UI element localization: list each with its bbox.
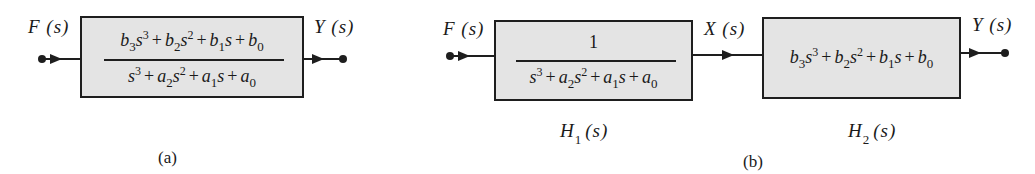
caption-a: (a)	[158, 148, 177, 168]
input-line-b	[450, 55, 494, 57]
block-name-h2: H2(s)	[848, 120, 896, 148]
denominator-a: s3+a2s2+a1s+a0	[82, 64, 302, 91]
middle-signal-label-b: X (s)	[704, 18, 745, 40]
output-arrow-icon-b	[969, 48, 981, 58]
numerator-h1: 1	[496, 32, 691, 53]
fraction-bar-h1	[516, 60, 676, 62]
output-terminal-dot-a	[339, 55, 347, 63]
fraction-bar-a	[104, 59, 284, 61]
input-arrow-icon-a	[50, 54, 62, 64]
transfer-function-block-a: b3s3+b2s2+b1s+b0 s3+a2s2+a1s+a0	[80, 16, 304, 98]
expression-h2: b3s3+b2s2+b1s+b0	[764, 45, 959, 72]
output-signal-label-b: Y (s)	[972, 14, 1012, 36]
output-arrow-icon-a	[312, 54, 324, 64]
output-line-b	[961, 52, 1005, 54]
numerator-a: b3s3+b2s2+b1s+b0	[82, 28, 302, 55]
output-terminal-dot-b	[1001, 49, 1009, 57]
middle-arrow-icon-b	[722, 50, 734, 60]
caption-b: (b)	[743, 152, 763, 172]
transfer-function-block-h2: b3s3+b2s2+b1s+b0	[762, 17, 961, 99]
output-signal-label-a: Y (s)	[314, 16, 354, 38]
denominator-h1: s3+a2s2+a1s+a0	[496, 65, 691, 92]
input-arrow-icon-b	[458, 51, 470, 61]
input-signal-label-a: F (s)	[28, 16, 69, 38]
transfer-function-block-h1: 1 s3+a2s2+a1s+a0	[494, 20, 693, 101]
input-signal-label-b: F (s)	[443, 18, 484, 40]
block-name-h1: H1(s)	[560, 120, 608, 148]
